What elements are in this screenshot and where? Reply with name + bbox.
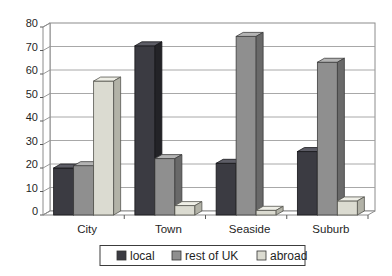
legend-swatch [257, 251, 266, 260]
y-axis-label: 20 [26, 158, 38, 170]
legend-label: abroad [270, 249, 307, 263]
grouped-bar-chart: 01020304050607080CityTownSeasideSuburblo… [0, 0, 392, 276]
bar-town-abroad [175, 202, 202, 215]
y-axis-label: 80 [26, 17, 38, 29]
x-axis-label: Town [155, 223, 182, 235]
x-axis-label: City [77, 223, 97, 235]
bar-city-abroad [94, 77, 121, 215]
legend-swatch [117, 251, 126, 260]
y-axis-label: 30 [26, 135, 38, 147]
y-axis-label: 40 [26, 111, 38, 123]
bar-suburb-abroad [337, 197, 364, 215]
legend-label: rest of UK [185, 249, 238, 263]
legend-item-local: local [117, 249, 155, 263]
y-axis-label: 10 [26, 182, 38, 194]
legend: localrest of UKabroad [100, 246, 307, 266]
x-axis-label: Seaside [229, 223, 271, 235]
y-axis-label: 50 [26, 88, 38, 100]
legend-swatch [172, 251, 181, 260]
bar-suburb-rest-of-uk [317, 58, 344, 215]
legend-label: local [130, 249, 155, 263]
bar-seaside-rest-of-uk [236, 32, 263, 215]
y-axis-label: 70 [26, 41, 38, 53]
y-axis-label: 0 [32, 205, 38, 217]
chart-canvas: 01020304050607080CityTownSeasideSuburblo… [0, 0, 392, 276]
legend-item-abroad: abroad [257, 249, 307, 263]
bar-seaside-abroad [256, 206, 283, 215]
x-axis-label: Suburb [312, 223, 349, 235]
y-axis-label: 60 [26, 64, 38, 76]
